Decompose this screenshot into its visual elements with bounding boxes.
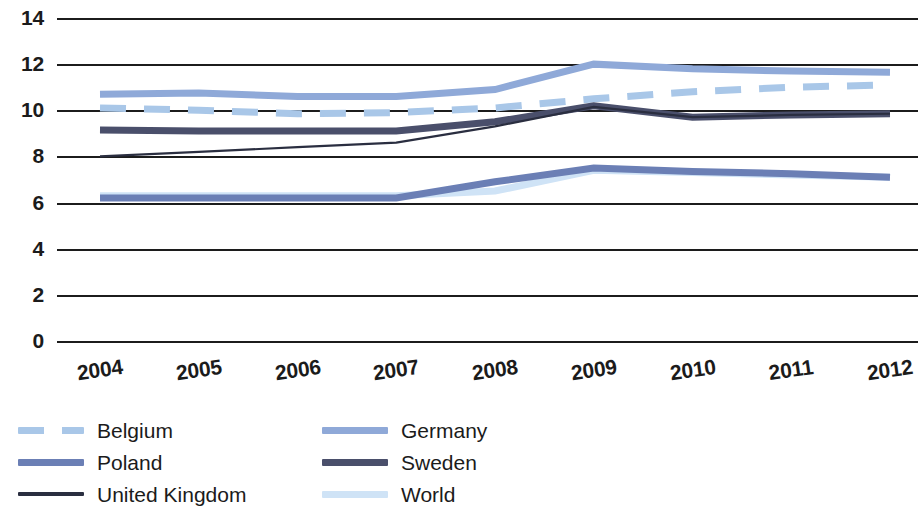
legend-label: United Kingdom <box>97 484 246 505</box>
x-axis-tick-label: 2008 <box>449 352 541 388</box>
legend-item[interactable]: Germany <box>322 414 487 446</box>
chart-legend: BelgiumPolandUnited Kingdom GermanySwede… <box>0 414 923 514</box>
legend-swatch-belgium <box>18 427 84 434</box>
legend-column-left: BelgiumPolandUnited Kingdom <box>18 414 246 510</box>
x-axis-tick-label: 2009 <box>548 352 640 388</box>
legend-swatch-world <box>322 491 388 498</box>
legend-label: World <box>401 484 455 505</box>
x-axis-tick-label: 2005 <box>153 352 245 388</box>
legend-swatch-united-kingdom <box>18 492 84 496</box>
legend-item[interactable]: Sweden <box>322 446 487 478</box>
legend-label: Sweden <box>401 452 477 473</box>
x-axis-tick-label: 2011 <box>745 352 837 388</box>
x-axis-tick-label: 2007 <box>350 352 442 388</box>
legend-swatch-germany <box>322 427 388 434</box>
legend-swatch-poland <box>18 459 84 466</box>
legend-column-right: GermanySwedenWorld <box>322 414 487 510</box>
legend-label: Germany <box>401 420 487 441</box>
legend-swatch-sweden <box>322 459 388 466</box>
legend-item[interactable]: United Kingdom <box>18 478 246 510</box>
plot-area: 02468101214 <box>0 0 923 350</box>
x-axis-tick-label: 2012 <box>844 352 923 388</box>
x-axis-tick-labels: 200420052006200720082009201020112012 <box>0 350 923 412</box>
x-axis-tick-label: 2006 <box>251 352 343 388</box>
x-axis-tick-label: 2010 <box>646 352 738 388</box>
legend-item[interactable]: World <box>322 478 487 510</box>
x-axis-tick-label: 2004 <box>54 352 146 388</box>
legend-item[interactable]: Poland <box>18 446 246 478</box>
series-layer <box>0 0 923 350</box>
legend-item[interactable]: Belgium <box>18 414 246 446</box>
legend-label: Belgium <box>97 420 173 441</box>
line-chart: 02468101214 2004200520062007200820092010… <box>0 0 923 514</box>
legend-label: Poland <box>97 452 162 473</box>
